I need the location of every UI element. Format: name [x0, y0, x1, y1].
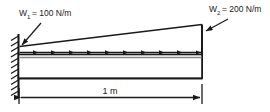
load-label-left: W1= 100 N/m: [19, 8, 71, 20]
load-label-right: W2= 200 N/m: [209, 4, 261, 16]
span-dimension-label: 1 m: [102, 86, 117, 96]
diagram-canvas: W1= 100 N/m W2= 200 N/m 1 m: [0, 0, 270, 112]
load-label-right-symbol: W: [209, 4, 217, 14]
beam-body: [19, 55, 203, 79]
leader-line-left: [22, 23, 41, 45]
span-dimension: 1 m: [19, 84, 202, 104]
load-label-right-value: = 200 N/m: [222, 4, 261, 14]
wall-hatching: [11, 36, 19, 96]
load-label-right-subscript: 2: [217, 10, 221, 16]
load-label-left-value: = 100 N/m: [32, 8, 71, 18]
load-label-right-group: W2= 200 N/m: [206, 4, 261, 31]
fixed-wall-support: [11, 34, 19, 97]
load-label-left-group: W1= 100 N/m: [19, 8, 71, 45]
load-slope-line: [20, 25, 203, 47]
load-label-left-symbol: W: [19, 8, 27, 18]
leader-line-right: [206, 19, 228, 31]
load-label-left-subscript: 1: [27, 14, 31, 20]
beam-load-diagram: W1= 100 N/m W2= 200 N/m 1 m: [0, 0, 270, 112]
